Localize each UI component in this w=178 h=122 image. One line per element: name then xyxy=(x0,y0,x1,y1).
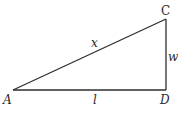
hypotenuse-edge-AC xyxy=(13,19,166,90)
edge-label-w: w xyxy=(168,50,178,64)
vertex-label-c: C xyxy=(161,4,170,18)
edge-label-x: x xyxy=(91,36,98,50)
vertex-label-a: A xyxy=(2,93,12,107)
edge-label-l: l xyxy=(93,93,97,107)
triangle-diagram: C A D x w l xyxy=(0,0,178,122)
vertex-label-d: D xyxy=(159,93,170,107)
